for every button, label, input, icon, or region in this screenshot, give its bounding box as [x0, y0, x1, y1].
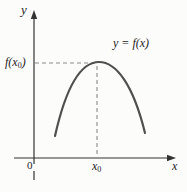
y-axis-arrow	[31, 10, 37, 19]
x0-tick-label: x0	[92, 160, 101, 172]
f-x0-label: f(x0)	[5, 56, 26, 68]
x-axis-label: x	[172, 160, 177, 172]
function-graph-figure: y x 0 f(x0) x0 y = f(x)	[0, 0, 187, 192]
function-curve	[55, 62, 145, 136]
y-axis-label: y	[21, 3, 27, 16]
f-x0-label-post: )	[22, 55, 26, 69]
x0-tick-label-subscript: 0	[97, 165, 101, 174]
origin-label: 0	[27, 160, 33, 171]
curve-equation-label: y = f(x)	[113, 37, 149, 49]
f-x0-label-pre: f(x	[5, 55, 18, 69]
